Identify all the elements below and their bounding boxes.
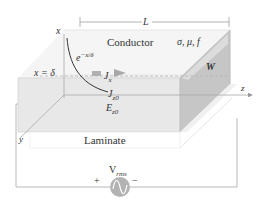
skin-effect-diagram: L x z y e−x/δ x = δ Jx Jz0 Ez0 Conductor…: [0, 0, 266, 209]
conductor-front-face: [18, 78, 180, 132]
length-dimension: [80, 17, 229, 27]
laminate-label: Laminate: [84, 134, 126, 146]
material-params-label: σ, μ, f: [177, 36, 201, 47]
minus-label: −: [132, 175, 138, 186]
length-label: L: [142, 16, 149, 27]
conductor-label: Conductor: [107, 36, 154, 48]
axis-y-label: y: [18, 134, 23, 144]
current-arrow-tail: [92, 71, 101, 76]
source-label: Vrms: [109, 164, 127, 178]
width-label: W: [206, 61, 216, 72]
axis-z-label: z: [240, 83, 245, 93]
plus-label: +: [94, 175, 100, 186]
axis-x-label: x: [55, 25, 61, 36]
skin-depth-label: x = δ: [33, 67, 55, 78]
